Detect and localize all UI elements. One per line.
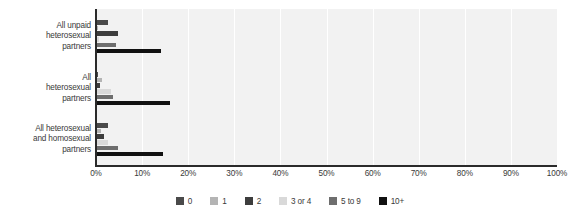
legend-swatch-icon (329, 197, 337, 205)
legend-swatch-icon (176, 197, 184, 205)
bar[interactable] (96, 134, 104, 139)
x-axis-tick-label: 70% (399, 169, 439, 178)
bar[interactable] (96, 89, 111, 94)
x-axis-tick-label: 90% (491, 169, 531, 178)
legend-item[interactable]: 2 (245, 197, 261, 206)
bars-layer (96, 9, 557, 165)
bar[interactable] (96, 140, 108, 145)
chart-legend: 0123 or 45 to 910+ (0, 193, 580, 209)
bar[interactable] (96, 152, 163, 157)
bar-row[interactable] (96, 49, 161, 54)
legend-label: 5 to 9 (341, 197, 361, 206)
x-axis-tick-label: 20% (168, 169, 208, 178)
bar-row[interactable] (96, 31, 118, 36)
x-axis-tick-label: 40% (260, 169, 300, 178)
bar-row[interactable] (96, 152, 163, 157)
y-axis-label-line: All unpaid (0, 21, 91, 31)
bar-row[interactable] (96, 101, 170, 106)
y-axis-label-line: partners (0, 42, 91, 52)
x-axis-tick-label: 100% (537, 169, 577, 178)
legend-item[interactable]: 3 or 4 (279, 197, 311, 206)
bar[interactable] (96, 20, 108, 25)
legend-item[interactable]: 1 (210, 197, 226, 206)
x-axis-tick-label: 80% (445, 169, 485, 178)
bar-row[interactable] (96, 43, 116, 48)
legend-swatch-icon (210, 197, 218, 205)
y-axis-label-line: heterosexual (0, 31, 91, 41)
bar[interactable] (96, 129, 101, 134)
legend-swatch-icon (245, 197, 253, 205)
y-axis-label-line: All heterosexual (0, 124, 91, 134)
bar-row[interactable] (96, 89, 111, 94)
x-axis-line (95, 165, 557, 167)
bar-row[interactable] (96, 78, 102, 83)
bar[interactable] (96, 101, 170, 106)
y-axis-label-line: heterosexual (0, 83, 91, 93)
legend-item[interactable]: 5 to 9 (329, 197, 361, 206)
y-axis-category-label: All heterosexualand homosexualpartners (0, 124, 91, 155)
y-axis-label-line: and homosexual (0, 134, 91, 144)
legend-item[interactable]: 10+ (379, 197, 404, 206)
legend-label: 1 (222, 197, 226, 206)
y-axis-label-line: partners (0, 145, 91, 155)
legend-label: 3 or 4 (291, 197, 311, 206)
y-axis-category-label: Allheterosexualpartners (0, 73, 91, 104)
bar-row[interactable] (96, 20, 108, 25)
legend-swatch-icon (379, 197, 387, 205)
bar-row[interactable] (96, 140, 108, 145)
legend-item[interactable]: 0 (176, 197, 192, 206)
plot-area (96, 9, 557, 165)
bar[interactable] (96, 31, 118, 36)
bar-row[interactable] (96, 134, 104, 139)
legend-label: 10+ (391, 197, 404, 206)
y-axis-label-line: All (0, 73, 91, 83)
bar-row[interactable] (96, 95, 113, 100)
bar[interactable] (96, 146, 118, 151)
bar-row[interactable] (96, 146, 118, 151)
legend-label: 2 (257, 197, 261, 206)
legend-label: 0 (188, 197, 192, 206)
bar[interactable] (96, 78, 102, 83)
x-axis-tick-labels: 0%10%20%30%40%50%60%70%80%90%100% (0, 169, 580, 183)
bar-row[interactable] (96, 129, 101, 134)
x-axis-tick-label: 10% (122, 169, 162, 178)
x-axis-tick-label: 30% (214, 169, 254, 178)
y-axis-labels: All unpaidheterosexualpartnersAllheteros… (0, 9, 91, 165)
legend-swatch-icon (279, 197, 287, 205)
x-axis-tick-label: 60% (353, 169, 393, 178)
bar[interactable] (96, 49, 161, 54)
y-axis-line (95, 9, 97, 166)
bar[interactable] (96, 95, 113, 100)
bar[interactable] (96, 43, 116, 48)
bar-row[interactable] (96, 123, 108, 128)
x-axis-tick-label: 0% (76, 169, 116, 178)
chart-container: All unpaidheterosexualpartnersAllheteros… (0, 0, 580, 219)
bar[interactable] (96, 123, 108, 128)
y-axis-label-line: partners (0, 94, 91, 104)
x-axis-tick-label: 50% (307, 169, 347, 178)
y-axis-category-label: All unpaidheterosexualpartners (0, 21, 91, 52)
